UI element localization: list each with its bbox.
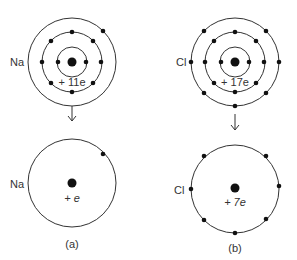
caption-b: (b) (228, 242, 241, 254)
arrow-down-icon (68, 106, 76, 121)
na-nucleus (68, 58, 77, 67)
arrow-down-icon (231, 114, 239, 130)
cl-nucleus (231, 58, 240, 67)
na-core-charge: + e (64, 192, 80, 204)
atom-diagram: Na + 11e Na + e (a) Cl + 17e (0, 0, 297, 260)
na-nucleus-charge: + 11e (58, 76, 85, 88)
cl-electrons (189, 29, 282, 109)
cl-core (231, 184, 240, 193)
cl-valence-electrons (189, 154, 282, 236)
caption-a: (a) (65, 238, 78, 250)
na-label: Na (10, 56, 25, 68)
na-valence-electron (101, 152, 106, 157)
cl-nucleus-charge: + 17e (221, 76, 249, 88)
na-core (68, 179, 77, 188)
cl-label: Cl (176, 56, 186, 68)
cl-label-simplified: Cl (174, 184, 184, 196)
na-label-simplified: Na (10, 178, 25, 190)
cl-core-charge: + 7e (224, 196, 246, 208)
